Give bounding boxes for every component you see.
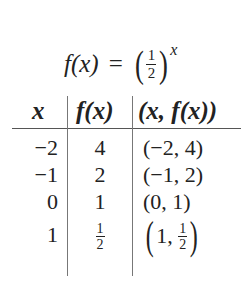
column-divider-2 bbox=[132, 96, 133, 276]
cell-x: 1 bbox=[0, 222, 58, 248]
base-denominator: 2 bbox=[148, 66, 156, 81]
equals-sign: = bbox=[109, 50, 123, 78]
cell-pair: (0, 1) bbox=[143, 189, 191, 215]
cell-fx: 4 bbox=[68, 135, 132, 161]
base-fraction: 1 2 bbox=[146, 48, 156, 81]
comma: , bbox=[167, 223, 178, 249]
left-paren: ( bbox=[135, 45, 144, 83]
base-numerator: 1 bbox=[148, 48, 156, 63]
right-paren: ) bbox=[159, 45, 168, 83]
fx-fraction: 1 2 bbox=[96, 222, 105, 251]
cell-fx: 1 2 bbox=[68, 218, 132, 254]
pair-numerator: 1 bbox=[179, 222, 186, 235]
cell-fx: 2 bbox=[68, 162, 132, 188]
cell-x: −1 bbox=[0, 162, 58, 188]
function-equation: f(x) = ( 1 2 ) x bbox=[64, 42, 177, 86]
cell-pair: ( 1, 1 2 ) bbox=[143, 216, 201, 256]
header-x: x bbox=[32, 96, 45, 126]
header-pair: (x, f(x)) bbox=[138, 96, 217, 126]
cell-fx: 1 bbox=[68, 189, 132, 215]
fx-denominator: 2 bbox=[97, 238, 104, 251]
left-paren: ( bbox=[146, 216, 154, 256]
cell-pair: (−2, 4) bbox=[143, 135, 203, 161]
exponent: x bbox=[170, 41, 177, 59]
header-fx: f(x) bbox=[76, 96, 113, 126]
fx-numerator: 1 bbox=[97, 222, 104, 235]
cell-pair: (−1, 2) bbox=[143, 162, 203, 188]
cell-x: 0 bbox=[0, 189, 58, 215]
cell-x: −2 bbox=[0, 135, 58, 161]
pair-fraction: 1 2 bbox=[178, 222, 187, 251]
equation-lhs: f(x) bbox=[64, 50, 99, 78]
pair-denominator: 2 bbox=[179, 238, 186, 251]
right-paren: ) bbox=[190, 216, 198, 256]
header-divider bbox=[12, 128, 241, 129]
pair-x: 1 bbox=[156, 223, 167, 249]
